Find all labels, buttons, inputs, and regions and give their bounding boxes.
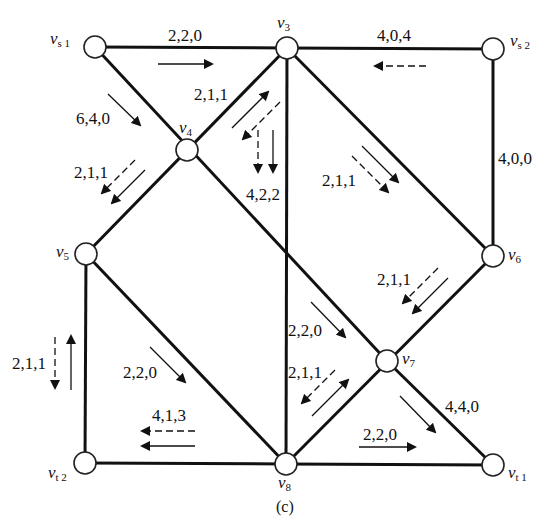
edge-vt2-v8 <box>85 463 286 464</box>
edge-label-v4-v7: 2,2,0 <box>288 321 322 340</box>
node-label-vs2: vs 2 <box>510 31 530 51</box>
arrow-down-right-icon <box>108 94 140 125</box>
edge-label-v5-vt2: 2,1,1 <box>12 354 46 373</box>
edge-label-v8-vt1: 2,2,0 <box>363 425 397 444</box>
edge-labels: 2,2,0 4,0,4 6,4,0 2,1,1 2,1,1 4,2,2 2,1,… <box>12 26 532 444</box>
edge-v8-vt1 <box>286 464 493 465</box>
edge-label-v3-v8: 4,2,2 <box>246 185 280 204</box>
edge-label-vs2-v6: 4,0,0 <box>498 149 532 168</box>
edge-label-v3-v4: 2,1,1 <box>194 85 228 104</box>
node-label-vs1: vs 1 <box>50 29 70 49</box>
node-v3 <box>276 37 298 59</box>
node-label-vt1: vt 1 <box>508 463 527 483</box>
node-label-v8: v8 <box>278 473 292 493</box>
node-v8 <box>275 453 297 475</box>
node-v5 <box>75 243 97 265</box>
edge-label-v7-v8: 2,1,1 <box>288 363 322 382</box>
node-label-v7: v7 <box>402 349 416 369</box>
edge-v5-vt2 <box>85 254 86 463</box>
edge-label-v5-v8: 2,2,0 <box>123 363 157 382</box>
edge-label-vs2-v3: 4,0,4 <box>377 26 412 45</box>
arrow-down-left-dashed-icon <box>243 102 280 139</box>
arrow-down-right-icon <box>362 146 398 182</box>
arrow-down-right-dashed-icon <box>352 156 388 192</box>
node-v6 <box>482 245 504 267</box>
edge-v5-v8 <box>86 254 286 464</box>
edge-label-vs1-v4: 6,4,0 <box>76 109 110 128</box>
node-labels: vs 1 v3 vs 2 v4 v5 v6 v7 vt 2 v8 vt 1 <box>48 13 530 493</box>
edge-v3-vs2 <box>287 48 493 49</box>
edge-label-v8-vt2: 4,1,3 <box>152 406 186 425</box>
edge-label-v7-vt1: 4,4,0 <box>445 397 479 416</box>
node-label-v6: v6 <box>508 245 522 265</box>
edge-vs1-v3 <box>95 47 287 48</box>
node-v4 <box>176 139 198 161</box>
node-vt2 <box>74 452 96 474</box>
node-vs1 <box>84 36 106 58</box>
node-vs2 <box>482 38 504 60</box>
flow-arrows <box>55 64 448 447</box>
node-vt1 <box>482 454 504 476</box>
arrow-up-right-icon <box>312 380 348 416</box>
figure-caption: (c) <box>276 498 294 516</box>
edge-v3-v6 <box>287 48 493 256</box>
edge-label-v4-v5: 2,1,1 <box>74 163 108 182</box>
node-label-v3: v3 <box>277 13 291 33</box>
flow-network-diagram: 2,2,0 4,0,4 6,4,0 2,1,1 2,1,1 4,2,2 2,1,… <box>0 0 546 530</box>
node-v7 <box>376 350 398 372</box>
node-label-v5: v5 <box>56 242 70 262</box>
edge-label-v3-v6: 2,1,1 <box>322 171 356 190</box>
node-label-v4: v4 <box>179 118 193 138</box>
edges <box>85 47 493 465</box>
edge-v3-v8 <box>286 48 287 464</box>
edge-label-v6-v7: 2,1,1 <box>377 270 411 289</box>
edge-label-vs1-v3: 2,2,0 <box>168 26 202 45</box>
node-label-vt2: vt 2 <box>48 463 67 483</box>
